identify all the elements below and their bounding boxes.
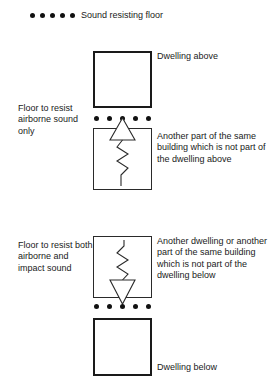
sound-resisting-floor-lower [93,303,152,309]
legend-dot [60,13,65,18]
floor-dot [107,116,112,121]
floor-dot [94,116,99,121]
label-other-part-lower: Another dwelling or another part of the … [157,236,269,282]
label-floor-resist-airborne: Floor to resist airborne sound only [18,103,94,137]
floor-dot [94,304,99,309]
label-dwelling-above: Dwelling above [157,51,269,62]
legend-dot-swatch [30,13,75,18]
floor-dot [120,304,125,309]
sound-resisting-floor-diagram: Sound resisting floor Dwelling above Flo… [0,0,269,390]
label-other-part-upper: Another part of the same building which … [157,131,269,165]
sound-resisting-floor-upper [93,115,152,121]
legend-dot [50,13,55,18]
box-other-part-lower [93,236,152,298]
legend-dot [70,13,75,18]
floor-dot [146,304,151,309]
box-dwelling-above [93,51,152,108]
legend: Sound resisting floor [30,10,163,21]
floor-dot [107,304,112,309]
legend-dot [30,13,35,18]
legend-dot [40,13,45,18]
label-dwelling-below: Dwelling below [157,362,269,373]
floor-dot [120,116,125,121]
label-floor-resist-impact: Floor to resist both airborne and impact… [18,240,94,274]
box-other-part-upper [93,128,152,190]
floor-dot [133,116,138,121]
floor-dot [133,304,138,309]
floor-dot [146,116,151,121]
box-dwelling-below [93,318,152,376]
legend-label: Sound resisting floor [81,10,163,21]
